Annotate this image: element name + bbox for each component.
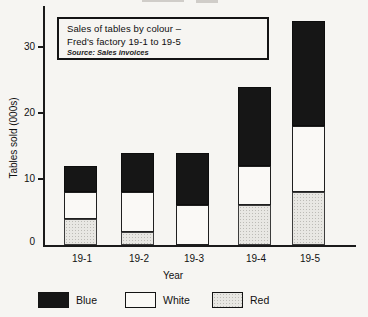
x-category-label-19-2: 19-2 — [116, 253, 162, 264]
bar-19-1-white-segment — [64, 192, 97, 218]
legend-swatch-white — [125, 292, 156, 308]
chart-title-line2: Fred's factory 19-1 to 19-5 — [67, 35, 267, 48]
bar-19-5-red-segment — [292, 192, 325, 245]
legend-label-red: Red — [250, 292, 269, 308]
legend-swatch-red — [212, 292, 243, 308]
y-tick-30 — [38, 46, 44, 48]
y-tick-label-20: 20 — [9, 107, 35, 118]
chart-title-line1: Sales of tables by colour – — [67, 22, 267, 35]
bar-19-4-white-segment — [238, 166, 271, 206]
bar-19-2-white-segment — [121, 192, 154, 232]
legend-label-white: White — [163, 292, 190, 308]
legend-swatch-blue — [38, 292, 69, 308]
bar-19-3-white-segment — [176, 205, 209, 245]
bar-19-3-blue-segment — [176, 153, 209, 206]
y-axis-line — [43, 6, 45, 247]
bar-19-2-red-segment — [121, 232, 154, 245]
x-category-label-19-5: 19-5 — [287, 253, 333, 264]
bar-19-1-blue-segment — [64, 166, 97, 192]
title-box: Sales of tables by colour – Fred's facto… — [57, 17, 269, 60]
y-tick-label-30: 30 — [9, 41, 35, 52]
y-tick-10 — [38, 178, 44, 180]
bar-19-4-blue-segment — [238, 87, 271, 166]
scan-artifact — [142, 0, 184, 2]
bar-19-5-white-segment — [292, 126, 325, 192]
y-tick-label-0: 0 — [9, 236, 35, 247]
x-category-label-19-4: 19-4 — [233, 253, 279, 264]
y-tick-label-10: 10 — [9, 173, 35, 184]
bar-19-4-red-segment — [238, 205, 271, 245]
x-category-label-19-1: 19-1 — [59, 253, 105, 264]
x-axis-line — [43, 245, 356, 247]
x-category-label-19-3: 19-3 — [171, 253, 217, 264]
legend-label-blue: Blue — [76, 292, 97, 308]
bar-19-2-blue-segment — [121, 153, 154, 193]
bar-19-5-blue-segment — [292, 21, 325, 127]
chart-figure: Sales of tables by colour – Fred's facto… — [0, 0, 368, 317]
chart-source-note: Source: Sales invoices — [67, 48, 267, 58]
bar-19-1-red-segment — [64, 219, 97, 245]
scan-artifact — [196, 0, 218, 3]
x-axis-title: Year — [151, 270, 195, 281]
y-tick-20 — [38, 112, 44, 114]
